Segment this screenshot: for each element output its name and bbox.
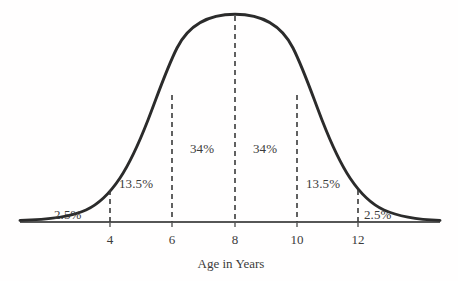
x-tick-label-6: 6 <box>169 233 176 246</box>
x-tick-label-12: 12 <box>352 233 365 246</box>
normal-curve-path <box>20 14 440 220</box>
x-tick-label-4: 4 <box>107 233 114 246</box>
x-tick-label-8: 8 <box>232 233 239 246</box>
normal-distribution-figure: 2.5% 13.5% 34% 34% 13.5% 2.5% 4 6 8 10 1… <box>0 0 458 281</box>
bell-curve-plot <box>0 0 458 281</box>
region-label-right-inner: 34% <box>253 142 277 155</box>
region-label-left-inner: 34% <box>190 142 214 155</box>
region-label-left-tail: 2.5% <box>54 208 81 221</box>
region-label-left-outer: 13.5% <box>119 177 153 190</box>
region-label-right-outer: 13.5% <box>306 177 340 190</box>
region-label-right-tail: 2.5% <box>364 208 391 221</box>
x-tick-label-10: 10 <box>291 233 304 246</box>
x-axis-title: Age in Years <box>198 257 265 270</box>
